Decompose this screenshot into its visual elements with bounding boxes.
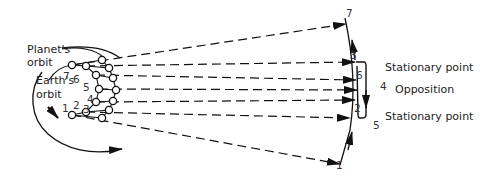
stationary-point-top-label: Stationary point [385, 62, 473, 74]
earth-number-7: 7 [63, 71, 70, 82]
sky-number-1: 1 [336, 160, 343, 171]
retrograde-motion-diagram: Planet's orbit Earth's orbit 7 6 5 4 3 2… [0, 0, 482, 180]
planet-orbit-label: Planet's [27, 44, 70, 56]
planet-orbit-label-2: orbit [27, 57, 53, 69]
earth-number-1: 1 [62, 103, 69, 114]
stationary-point-bottom-label: Stationary point [385, 111, 473, 123]
sky-number-7: 7 [346, 8, 353, 19]
sky-number-2: 2 [354, 103, 361, 114]
earth-number-2: 2 [73, 100, 80, 111]
earth-number-3: 3 [83, 104, 90, 115]
sky-number-4: 4 [380, 81, 387, 92]
earth-number-5: 5 [83, 82, 90, 93]
opposition-label: Opposition [395, 84, 454, 96]
sky-number-3: 3 [350, 50, 357, 61]
earth-orbit-label-2: orbit [36, 89, 62, 101]
earth-number-6: 6 [73, 74, 80, 85]
sky-number-6: 6 [356, 70, 363, 81]
apparent-path [340, 18, 353, 165]
sky-number-5: 5 [373, 120, 380, 131]
